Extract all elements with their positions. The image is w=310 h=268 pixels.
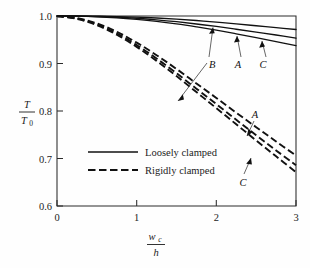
loosely-clamped-curves — [57, 16, 296, 46]
figure-page: 1.0 0.9 0.8 0.7 0.6 0 1 2 3 T T 0 — [0, 0, 310, 268]
x-axis-label-numerator-sub: c — [158, 235, 162, 244]
legend-label-rigidly-clamped: Rigidly clamped — [145, 165, 215, 176]
y-axis-label: T T 0 — [19, 99, 35, 128]
y-axis-ticks — [57, 16, 63, 206]
legend-label-loosely-clamped: Loosely clamped — [145, 147, 218, 158]
arrowhead-A-upper — [234, 36, 240, 43]
y-tick-label-07: 0.7 — [39, 154, 52, 165]
curve-loosely-clamped-C — [57, 16, 296, 46]
legend: Loosely clamped Rigidly clamped — [88, 147, 218, 176]
chart-svg: 1.0 0.9 0.8 0.7 0.6 0 1 2 3 T T 0 — [0, 0, 310, 268]
y-axis-label-denominator: T — [21, 115, 28, 126]
y-axis-label-numerator: T — [24, 99, 31, 110]
annotation-C-lower: C — [239, 158, 251, 188]
x-tick-label-1: 1 — [134, 212, 139, 223]
annotation-A-upper: A — [234, 36, 242, 70]
y-axis-label-denominator-sub: 0 — [29, 119, 33, 128]
y-tick-label-1: 1.0 — [39, 11, 52, 22]
x-axis-label-denominator: h — [153, 247, 158, 258]
y-tick-label-08: 0.8 — [39, 106, 52, 117]
y-tick-label-09: 0.9 — [39, 59, 52, 70]
annotation-B: B — [178, 59, 216, 101]
arrowhead-B — [178, 94, 184, 101]
y-tick-label-06: 0.6 — [39, 201, 52, 212]
arrowhead-C-upper — [259, 41, 265, 48]
x-axis-ticks — [57, 200, 296, 206]
plot-frame — [57, 16, 296, 206]
curve-rigidly-clamped-B — [57, 16, 296, 156]
chart-figure: 1.0 0.9 0.8 0.7 0.6 0 1 2 3 T T 0 — [0, 0, 310, 268]
x-axis-label: w c h — [147, 231, 165, 258]
annotation-label-B: B — [209, 59, 216, 70]
annotation-label-C-lower: C — [239, 177, 247, 188]
arrowhead-C-lower — [246, 158, 252, 165]
x-axis-label-numerator: w — [148, 231, 155, 242]
annotation-label-A-upper: A — [234, 59, 242, 70]
x-tick-label-3: 3 — [293, 212, 298, 223]
x-tick-label-0: 0 — [54, 212, 59, 223]
annotation-label-A-lower: A — [251, 109, 259, 120]
x-tick-label-2: 2 — [214, 212, 219, 223]
x-axis-tick-labels: 0 1 2 3 — [54, 212, 298, 223]
y-axis-tick-labels: 1.0 0.9 0.8 0.7 0.6 — [39, 11, 52, 212]
annotation-B-upper — [209, 28, 215, 58]
annotation-label-C-upper: C — [259, 59, 267, 70]
annotation-C-upper: C — [259, 41, 267, 70]
